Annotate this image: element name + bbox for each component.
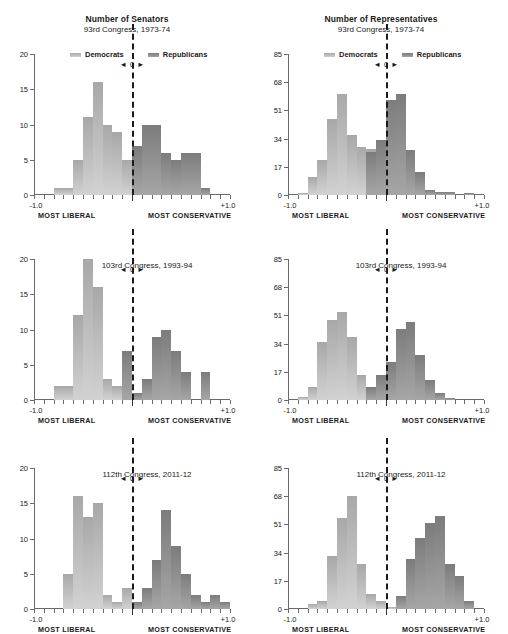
x-axis-tick bbox=[201, 609, 202, 613]
bar-democrat bbox=[63, 188, 73, 195]
bar-republican bbox=[161, 510, 171, 609]
x-axis-tick bbox=[357, 609, 358, 613]
x-axis-tick bbox=[112, 195, 113, 199]
bar-republican bbox=[220, 602, 230, 609]
x-axis-tick bbox=[366, 400, 367, 404]
x-axis-tick bbox=[54, 195, 55, 199]
bar-republican bbox=[415, 538, 425, 609]
bar-democrat bbox=[308, 604, 318, 609]
bar-democrat bbox=[103, 595, 113, 609]
x-axis-zero-label: 0 bbox=[384, 265, 388, 274]
y-axis-tick-label: 15 bbox=[20, 85, 28, 94]
bar-democrat bbox=[83, 117, 93, 195]
x-axis-tick bbox=[161, 400, 162, 404]
y-axis-tick-label: 51 bbox=[274, 520, 282, 529]
x-axis-tick bbox=[161, 195, 162, 199]
y-axis-line bbox=[34, 468, 35, 609]
most-conservative-label: MOST CONSERVATIVE bbox=[402, 625, 485, 634]
bar-republican bbox=[435, 393, 445, 400]
bar-republican bbox=[142, 588, 152, 609]
x-axis-tick bbox=[347, 609, 348, 613]
y-axis-tick-label: 34 bbox=[274, 339, 282, 348]
bar-democrat bbox=[347, 135, 357, 195]
bar-republican bbox=[464, 601, 474, 609]
bar-democrat bbox=[298, 193, 308, 195]
right-arrow-icon: ► bbox=[137, 265, 144, 274]
x-axis-tick bbox=[406, 609, 407, 613]
x-axis-tick bbox=[220, 195, 221, 199]
right-arrow-icon: ► bbox=[137, 474, 144, 483]
bar-republican bbox=[425, 523, 435, 609]
bar-democrat bbox=[103, 125, 113, 196]
y-axis-tick bbox=[284, 139, 288, 140]
bar-republican bbox=[152, 560, 162, 609]
bar-democrat bbox=[112, 602, 122, 609]
panel-subtitle: 93rd Congress, 1973-74 bbox=[254, 25, 508, 34]
x-axis-tick bbox=[44, 195, 45, 199]
y-axis-tick-label: 0 bbox=[278, 191, 282, 200]
x-axis-label-max: +1.0 bbox=[475, 201, 490, 210]
x-axis-tick bbox=[317, 609, 318, 613]
right-arrow-icon: ► bbox=[391, 474, 398, 483]
x-axis-tick bbox=[122, 400, 123, 404]
bar-republican bbox=[171, 351, 181, 400]
bar-republican bbox=[366, 152, 376, 195]
bar-democrat bbox=[112, 132, 122, 195]
x-axis-label-max: +1.0 bbox=[221, 201, 236, 210]
x-axis-tick bbox=[415, 609, 416, 613]
x-axis-tick bbox=[435, 609, 436, 613]
bar-republican bbox=[376, 140, 386, 195]
x-axis-tick bbox=[484, 400, 485, 404]
y-axis-tick-label: 85 bbox=[274, 50, 282, 59]
bar-republican bbox=[406, 322, 416, 400]
bar-democrat bbox=[93, 287, 103, 400]
x-axis-tick bbox=[210, 400, 211, 404]
y-axis-tick-label: 5 bbox=[24, 155, 28, 164]
x-axis-label-max: +1.0 bbox=[221, 406, 236, 415]
bar-democrat bbox=[63, 574, 73, 609]
x-axis-center-marker: ◄0► bbox=[373, 60, 398, 69]
left-arrow-icon: ◄ bbox=[119, 474, 126, 483]
x-axis-tick bbox=[103, 195, 104, 199]
x-axis-tick bbox=[112, 400, 113, 404]
y-axis-tick-label: 0 bbox=[278, 605, 282, 614]
x-axis-tick bbox=[376, 609, 377, 613]
bar-republican bbox=[181, 153, 191, 195]
bar-democrat bbox=[298, 397, 308, 400]
panel-title: Number of Representatives bbox=[254, 14, 508, 24]
bar-democrat bbox=[366, 594, 376, 609]
x-axis-tick bbox=[103, 400, 104, 404]
y-axis-tick-label: 85 bbox=[274, 464, 282, 473]
y-axis-tick bbox=[284, 259, 288, 260]
x-axis-tick bbox=[63, 400, 64, 404]
x-axis-tick bbox=[425, 400, 426, 404]
x-axis-zero-label: 0 bbox=[130, 265, 134, 274]
x-axis-label-min: -1.0 bbox=[30, 406, 43, 415]
x-axis-tick bbox=[288, 195, 289, 199]
y-axis-tick-label: 20 bbox=[20, 50, 28, 59]
x-axis-tick bbox=[298, 195, 299, 199]
bar-democrat bbox=[93, 82, 103, 195]
bar-republican bbox=[435, 516, 445, 609]
panel-representatives-row3: 112th Congress, 2011-1201734516885-1.0+1… bbox=[254, 420, 508, 630]
y-axis-tick bbox=[30, 89, 34, 90]
y-axis-tick-label: 34 bbox=[274, 548, 282, 557]
y-axis-tick bbox=[284, 54, 288, 55]
x-axis-tick bbox=[425, 609, 426, 613]
y-axis-tick bbox=[30, 330, 34, 331]
x-axis-tick bbox=[317, 400, 318, 404]
bar-democrat bbox=[93, 503, 103, 609]
x-axis-tick bbox=[83, 400, 84, 404]
panel-representatives-row1: Number of Representatives93rd Congress, … bbox=[254, 0, 508, 215]
x-axis-tick bbox=[73, 609, 74, 613]
x-axis-tick bbox=[376, 400, 377, 404]
x-axis-tick bbox=[484, 195, 485, 199]
x-axis-tick bbox=[415, 195, 416, 199]
y-axis-tick bbox=[284, 344, 288, 345]
y-axis-tick bbox=[284, 553, 288, 554]
x-axis-zero-label: 0 bbox=[130, 474, 134, 483]
x-axis-tick bbox=[317, 195, 318, 199]
bar-democrat bbox=[54, 188, 64, 195]
bar-democrat bbox=[337, 518, 347, 609]
bar-republican bbox=[406, 150, 416, 195]
